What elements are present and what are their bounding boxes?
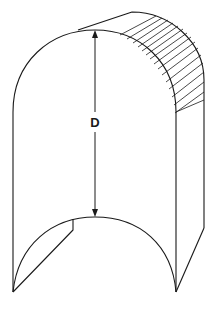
inner-left-edge bbox=[13, 219, 73, 292]
right-bottom-edge bbox=[176, 228, 204, 292]
inner-arch bbox=[13, 217, 176, 292]
half-cylinder-diagram: D bbox=[0, 0, 219, 310]
arrow-down-icon bbox=[92, 209, 98, 217]
dimension-arrow: D bbox=[90, 30, 99, 217]
arrow-up-icon bbox=[92, 30, 98, 38]
dimension-label: D bbox=[90, 115, 99, 130]
